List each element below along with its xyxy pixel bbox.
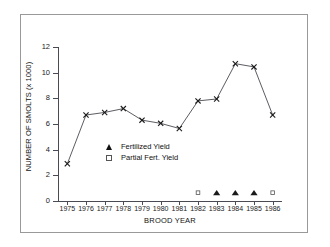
data-point-marker — [121, 106, 126, 111]
data-point-marker — [251, 64, 256, 69]
y-tick-mark — [53, 150, 58, 151]
data-point-marker — [195, 98, 200, 103]
open-square-icon — [101, 155, 117, 161]
legend-item-partial-fert-yield: Partial Fert. Yield — [101, 152, 178, 163]
fertilized-yield-marker — [232, 190, 239, 195]
y-tick-mark — [53, 47, 58, 48]
fertilized-yield-marker — [213, 190, 220, 195]
y-tick-mark — [53, 98, 58, 99]
fertilized-yield-marker — [250, 190, 257, 195]
data-point-marker — [177, 126, 182, 131]
legend-label: Partial Fert. Yield — [117, 153, 178, 162]
x-axis-line — [58, 201, 282, 202]
data-point-marker — [65, 161, 70, 166]
y-tick-label: 0 — [28, 197, 50, 205]
data-point-marker — [270, 112, 275, 117]
data-point-marker — [102, 110, 107, 115]
data-point-marker — [233, 61, 238, 66]
x-tick-label: 1986 — [260, 205, 286, 213]
x-axis-title: BROOD YEAR — [58, 216, 282, 225]
y-tick-label: 12 — [28, 43, 50, 51]
partial-fert-yield-marker — [196, 191, 200, 195]
filled-triangle-icon — [101, 144, 117, 150]
data-point-marker — [83, 112, 88, 117]
y-axis-title: NUMBER OF SMOLTS (x 1000) — [24, 56, 33, 178]
y-tick-mark — [53, 175, 58, 176]
y-tick-mark — [53, 201, 58, 202]
chart-legend: Fertilized Yield Partial Fert. Yield — [101, 141, 178, 163]
data-point-marker — [214, 96, 219, 101]
y-axis-line — [58, 47, 59, 202]
y-tick-mark — [53, 124, 58, 125]
data-point-marker — [139, 118, 144, 123]
legend-item-fertilized-yield: Fertilized Yield — [101, 141, 178, 152]
data-point-marker — [158, 121, 163, 126]
y-tick-mark — [53, 73, 58, 74]
chart-plot-area: 024681012 197519761977197819791980198119… — [0, 0, 330, 247]
partial-fert-yield-marker — [271, 191, 275, 195]
legend-label: Fertilized Yield — [117, 142, 170, 151]
